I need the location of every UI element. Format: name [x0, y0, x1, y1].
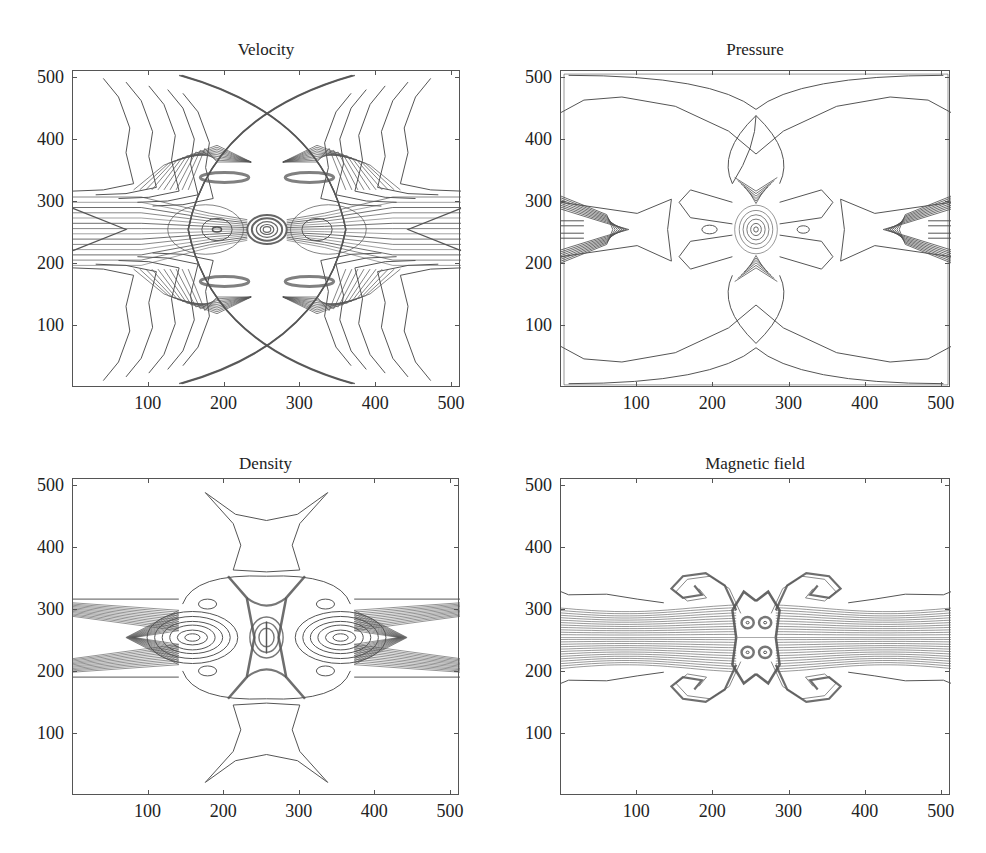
y-tick: [72, 733, 77, 734]
y-tick-label: 500: [20, 67, 64, 88]
x-tick: [148, 70, 149, 75]
x-tick-label: 500: [426, 393, 476, 414]
x-tick-label: 300: [764, 801, 814, 822]
x-tick: [451, 382, 452, 387]
y-tick: [455, 201, 460, 202]
y-tick-label: 400: [20, 129, 64, 150]
y-tick: [455, 77, 460, 78]
y-tick-label: 100: [20, 315, 64, 336]
x-tick: [450, 790, 451, 795]
x-tick: [450, 478, 451, 483]
y-tick-label: 200: [508, 661, 552, 682]
y-tick: [560, 609, 565, 610]
x-tick-label: 400: [840, 801, 890, 822]
x-tick-label: 200: [199, 393, 249, 414]
x-tick: [941, 382, 942, 387]
y-tick: [454, 547, 459, 548]
x-tick: [148, 478, 149, 483]
x-tick-label: 300: [274, 801, 324, 822]
x-tick: [299, 70, 300, 75]
y-tick: [945, 609, 950, 610]
y-tick: [945, 671, 950, 672]
x-tick: [224, 70, 225, 75]
x-tick: [865, 478, 866, 483]
x-tick: [789, 70, 790, 75]
y-tick-label: 100: [508, 315, 552, 336]
contour-plot: [73, 479, 460, 796]
y-tick: [454, 485, 459, 486]
x-tick-label: 400: [840, 393, 890, 414]
x-tick: [299, 382, 300, 387]
x-tick-label: 500: [916, 801, 966, 822]
y-tick: [560, 671, 565, 672]
panel-title: Velocity: [238, 40, 295, 60]
y-tick: [455, 325, 460, 326]
x-tick-label: 500: [425, 801, 475, 822]
y-tick: [455, 263, 460, 264]
x-tick-label: 200: [687, 393, 737, 414]
x-tick-label: 400: [349, 801, 399, 822]
y-tick-label: 500: [20, 475, 64, 496]
y-tick: [72, 139, 77, 140]
x-tick: [941, 70, 942, 75]
y-tick-label: 200: [508, 253, 552, 274]
y-tick-label: 300: [20, 191, 64, 212]
plot-area: [72, 70, 460, 387]
y-tick: [454, 733, 459, 734]
x-tick: [789, 790, 790, 795]
x-tick: [865, 790, 866, 795]
x-tick: [148, 382, 149, 387]
y-tick: [945, 733, 950, 734]
y-tick: [945, 263, 950, 264]
x-tick: [712, 70, 713, 75]
x-tick: [712, 478, 713, 483]
x-tick: [636, 790, 637, 795]
x-tick: [375, 70, 376, 75]
y-tick: [945, 201, 950, 202]
x-tick: [789, 478, 790, 483]
x-tick-label: 100: [611, 393, 661, 414]
y-tick: [945, 77, 950, 78]
y-tick: [72, 201, 77, 202]
x-tick: [865, 382, 866, 387]
x-tick: [636, 382, 637, 387]
plot-area: [72, 478, 459, 795]
panel-title: Pressure: [726, 40, 784, 60]
y-tick: [560, 733, 565, 734]
y-tick: [72, 77, 77, 78]
x-tick-label: 100: [123, 393, 173, 414]
x-tick: [636, 478, 637, 483]
y-tick: [945, 139, 950, 140]
y-tick: [945, 547, 950, 548]
y-tick: [72, 325, 77, 326]
x-tick: [712, 790, 713, 795]
x-tick: [636, 70, 637, 75]
y-tick: [72, 263, 77, 264]
y-tick-label: 400: [508, 537, 552, 558]
x-tick-label: 300: [764, 393, 814, 414]
y-tick: [72, 485, 77, 486]
y-tick-label: 300: [20, 599, 64, 620]
plot-area: [560, 70, 950, 387]
x-tick: [451, 70, 452, 75]
x-tick-label: 100: [123, 801, 173, 822]
y-tick: [72, 547, 77, 548]
y-tick-label: 400: [20, 537, 64, 558]
y-tick: [560, 139, 565, 140]
x-tick: [865, 70, 866, 75]
x-tick-label: 500: [916, 393, 966, 414]
x-tick: [299, 478, 300, 483]
y-tick: [72, 609, 77, 610]
x-tick: [224, 382, 225, 387]
y-tick: [560, 547, 565, 548]
y-tick-label: 200: [20, 661, 64, 682]
x-tick: [375, 382, 376, 387]
x-tick: [374, 790, 375, 795]
x-tick: [223, 790, 224, 795]
x-tick-label: 200: [687, 801, 737, 822]
y-tick-label: 500: [508, 475, 552, 496]
y-tick: [454, 609, 459, 610]
y-tick-label: 300: [508, 191, 552, 212]
y-tick: [945, 485, 950, 486]
y-tick-label: 100: [508, 723, 552, 744]
